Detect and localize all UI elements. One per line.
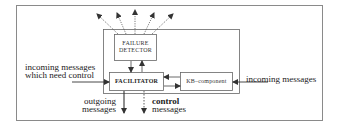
control-label-2: messages [152,105,186,114]
kb-component-label: KB–component [180,78,233,85]
outgoing-label-2: messages [82,105,116,114]
incoming-right-label: incoming messages [246,75,316,84]
broadcast-arrows [97,10,173,34]
facilitator-label: FACILITATOR [109,78,164,85]
incoming-control-label-2: which need control [25,71,94,80]
failure-detector-label: FAILURE DETECTOR [114,40,157,54]
